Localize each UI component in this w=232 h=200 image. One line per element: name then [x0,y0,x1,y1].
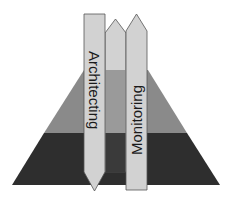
arrow-monitoring-label: Monitoring [128,85,145,155]
arrow-architecting-label: Architecting [86,51,103,129]
pyramid-diagram: Architecting Monitoring [0,0,232,200]
arrow-architecting: Architecting [84,14,105,191]
arrow-monitoring: Monitoring [126,14,147,190]
arrow-up-unlabeled [105,19,126,172]
